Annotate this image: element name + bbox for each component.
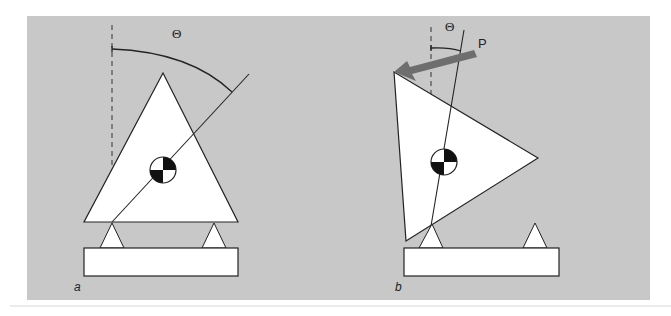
base-block <box>84 248 238 276</box>
panel-label-a: a <box>74 280 81 294</box>
angle-label-theta-b: Θ <box>445 19 454 34</box>
stability-diagram: Θ a Θ <box>0 0 671 316</box>
force-label-p: P <box>478 36 487 51</box>
base-block-b <box>404 248 559 276</box>
panel-label-b: b <box>395 280 402 294</box>
center-of-mass-icon-b <box>431 149 457 175</box>
center-of-mass-icon <box>150 157 176 183</box>
angle-label-theta: Θ <box>172 26 181 41</box>
